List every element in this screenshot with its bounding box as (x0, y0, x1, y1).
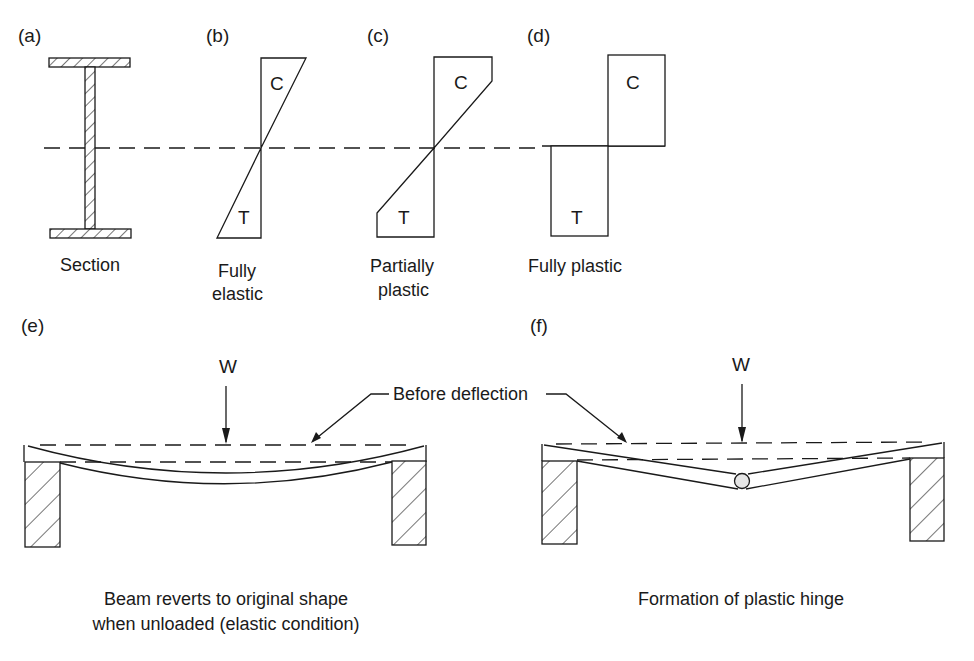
panel-d-tag: (d) (527, 25, 550, 46)
i-beam-section-icon (49, 58, 131, 238)
panel-d-compression-label: C (626, 72, 640, 93)
plastic-hinge-icon (735, 474, 750, 489)
support-right-f (910, 458, 944, 541)
pointer-arrow-left-icon (311, 432, 321, 443)
before-deflection-label: Before deflection (393, 384, 528, 404)
panel-b-fully-elastic: (b) C T Fully elastic (206, 25, 306, 304)
beam-plasticity-diagram: (a) Section (b) C T Fully elastic (c) C … (0, 0, 974, 661)
panel-d-tension-label: T (571, 207, 583, 228)
panel-b-tag: (b) (206, 25, 229, 46)
panel-b-compression-label: C (270, 73, 284, 94)
panel-c-tag: (c) (367, 25, 389, 46)
load-arrow-icon (222, 386, 230, 444)
panel-f-plastic-hinge: (f) W Formation of plastic hinge (530, 315, 944, 609)
panel-f-tag: (f) (530, 315, 548, 336)
panel-d-fully-plastic: (d) C T Fully plastic (527, 25, 665, 276)
pointer-arrow-right-icon (617, 432, 627, 443)
panel-c-caption-line2: plastic (378, 280, 429, 300)
beam-original-outline (542, 442, 944, 461)
panel-a-tag: (a) (18, 25, 41, 46)
panel-b-tension-label: T (238, 207, 250, 228)
panel-c-compression-label: C (454, 72, 468, 93)
panel-e-elastic-beam: (e) W Beam reverts to original shape whe… (21, 315, 426, 634)
support-right-e (392, 461, 426, 545)
before-deflection-annotation: Before deflection (311, 384, 627, 443)
panel-a-caption: Section (60, 255, 120, 275)
panel-b-caption-line1: Fully (218, 261, 256, 281)
support-left-f (542, 461, 577, 544)
partial-plastic-stress-distribution (377, 57, 492, 237)
panel-e-load-label: W (219, 356, 237, 377)
panel-e-tag: (e) (21, 315, 44, 336)
panel-e-caption-line2: when unloaded (elastic condition) (91, 614, 359, 634)
panel-f-caption: Formation of plastic hinge (638, 589, 844, 609)
panel-a-section: (a) Section (18, 25, 131, 275)
panel-d-caption: Fully plastic (528, 256, 622, 276)
panel-c-caption-line1: Partially (370, 256, 434, 276)
panel-e-caption-line1: Beam reverts to original shape (104, 589, 348, 609)
fully-plastic-stress-distribution (551, 55, 665, 236)
panel-b-caption-line2: elastic (212, 284, 263, 304)
panel-c-tension-label: T (398, 207, 410, 228)
panel-c-partially-plastic: (c) C T Partially plastic (367, 25, 492, 300)
load-arrow-icon (738, 384, 746, 443)
panel-f-load-label: W (732, 354, 750, 375)
beam-deflected-curve (28, 446, 424, 484)
support-left-e (25, 462, 60, 547)
